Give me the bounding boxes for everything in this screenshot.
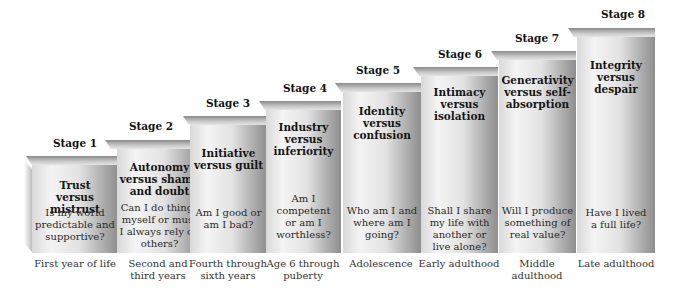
stage-6-block: Intimacy versus isolation Shall I share … [421, 76, 498, 253]
stage-1-block: Trust versus mistrust Is my world predic… [32, 165, 118, 253]
stage-3-question: Am I good or am I bad? [192, 207, 265, 231]
stage-6-label: Stage 6 [435, 48, 485, 60]
stage-6-age: Early adulthood [417, 258, 501, 270]
stage-1-age: First year of life [30, 258, 120, 270]
stage-4-question: Am I competent or am I worthless? [268, 193, 339, 241]
stage-1-side-face [24, 160, 32, 252]
stage-5-age: Adolescence [341, 258, 421, 270]
stage-8-question: Have I lived a full life? [579, 207, 653, 231]
stage-6-question: Shall I share my life with another or li… [423, 205, 496, 253]
stage-8-label: Stage 8 [598, 8, 648, 20]
stage-5-crisis: Identity versus confusion [345, 105, 419, 141]
stage-7-question: Will I produce something of real value? [501, 205, 574, 241]
stage-4-block: Industry versus inferiority Am I compete… [266, 110, 341, 253]
stage-7-crisis: Generativity versus self-absorption [501, 74, 574, 110]
stage-3-age: Fourth through sixth years [188, 258, 268, 282]
stage-6-crisis: Intimacy versus isolation [423, 86, 496, 122]
stage-4-age: Age 6 through puberty [264, 258, 342, 282]
stage-2-top-face [105, 140, 201, 149]
stage-1-label: Stage 1 [50, 137, 100, 149]
stage-8-crisis: Integrity versus despair [579, 59, 653, 95]
stage-7-top-face [491, 51, 576, 60]
stage-1-question: Is my world predictable and supportive? [34, 207, 116, 243]
stage-7-block: Generativity versus self-absorption Will… [499, 60, 576, 253]
stage-2-crisis: Autonomy versus shame and doubt [119, 161, 200, 197]
stage-8-age: Late adulthood [573, 258, 659, 270]
stage-1-top-face [26, 156, 118, 165]
stage-3-block: Initiative versus guilt Am I good or am … [190, 125, 267, 253]
stage-7-label: Stage 7 [512, 32, 562, 44]
stage-7-age: Middle adulthood [497, 258, 577, 282]
stage-5-label: Stage 5 [353, 64, 403, 76]
stage-4-crisis: Industry versus inferiority [268, 121, 339, 157]
stage-3-crisis: Initiative versus guilt [192, 147, 265, 171]
stage-3-label: Stage 3 [203, 97, 253, 109]
stage-5-block: Identity versus confusion Who am I and w… [343, 92, 421, 253]
stage-5-question: Who am I and where am I going? [345, 205, 419, 241]
stage-2-question: Can I do things myself or must I always … [119, 202, 200, 250]
stage-2-label: Stage 2 [126, 120, 176, 132]
stage-3-top-face [183, 116, 267, 125]
stage-4-top-face [259, 101, 341, 110]
stage-5-top-face [335, 83, 421, 92]
stage-6-top-face [413, 67, 498, 76]
stage-4-label: Stage 4 [280, 82, 330, 94]
stage-8-block: Integrity versus despair Have I lived a … [577, 37, 655, 253]
stage-8-top-face [568, 28, 655, 37]
